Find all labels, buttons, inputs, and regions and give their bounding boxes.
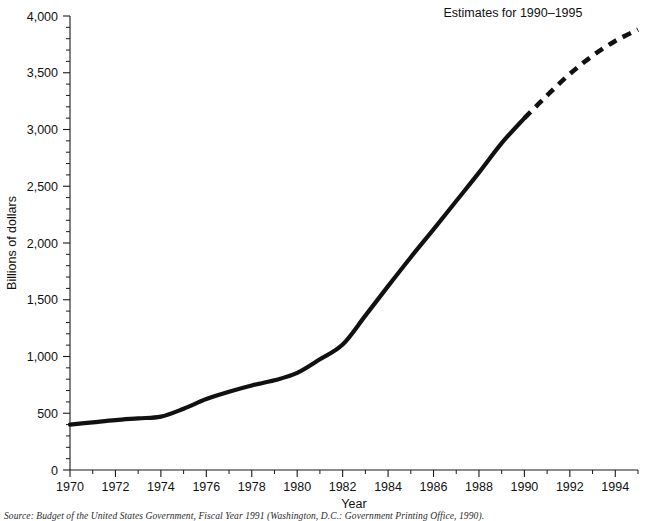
y-axis-tick-labels: 05001,0001,5002,0002,5003,0003,5004,000 bbox=[27, 10, 58, 478]
x-tick-label: 1980 bbox=[283, 480, 311, 494]
x-tick-label: 1990 bbox=[510, 480, 538, 494]
data-series-group bbox=[70, 30, 638, 425]
source-note: Source: Budget of the United States Gove… bbox=[4, 511, 484, 521]
x-tick-label: 1992 bbox=[556, 480, 584, 494]
y-tick-label: 3,500 bbox=[27, 66, 58, 80]
x-tick-label: 1986 bbox=[420, 480, 448, 494]
y-tick-label: 3,000 bbox=[27, 123, 58, 137]
x-axis-major-ticks bbox=[70, 470, 615, 477]
x-tick-label: 1972 bbox=[102, 480, 130, 494]
x-axis-tick-labels: 1970197219741976197819801982198419861988… bbox=[56, 480, 629, 494]
y-tick-label: 2,000 bbox=[27, 237, 58, 251]
y-axis-title: Billions of dollars bbox=[5, 196, 19, 290]
x-axis-minor-ticks bbox=[93, 470, 638, 474]
y-axis: 05001,0001,5002,0002,5003,0003,5004,000 bbox=[27, 10, 70, 478]
y-tick-label: 0 bbox=[51, 464, 58, 478]
line-chart: 05001,0001,5002,0002,5003,0003,5004,000 … bbox=[0, 0, 649, 521]
y-tick-label: 500 bbox=[37, 407, 58, 421]
x-tick-label: 1982 bbox=[329, 480, 357, 494]
x-tick-label: 1970 bbox=[56, 480, 84, 494]
y-tick-label: 1,000 bbox=[27, 350, 58, 364]
x-tick-label: 1984 bbox=[374, 480, 402, 494]
x-tick-label: 1988 bbox=[465, 480, 493, 494]
series-actual-outlays-line bbox=[70, 118, 524, 424]
estimates-annotation: Estimates for 1990–1995 bbox=[444, 6, 583, 20]
x-axis: 1970197219741976197819801982198419861988… bbox=[56, 470, 638, 494]
x-tick-label: 1994 bbox=[601, 480, 629, 494]
chart-figure: 05001,0001,5002,0002,5003,0003,5004,000 … bbox=[0, 0, 649, 521]
x-axis-title: Year bbox=[341, 497, 366, 511]
y-tick-label: 1,500 bbox=[27, 293, 58, 307]
x-tick-label: 1974 bbox=[147, 480, 175, 494]
y-tick-label: 4,000 bbox=[27, 10, 58, 24]
series-estimates-line bbox=[524, 30, 638, 119]
y-tick-label: 2,500 bbox=[27, 180, 58, 194]
x-tick-label: 1978 bbox=[238, 480, 266, 494]
x-tick-label: 1976 bbox=[192, 480, 220, 494]
